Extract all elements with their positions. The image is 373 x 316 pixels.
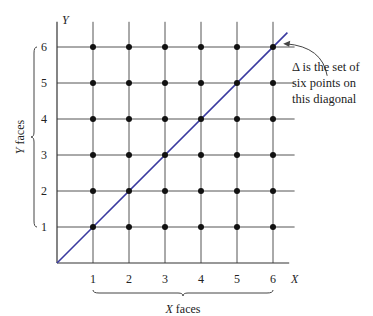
y-tick-label: 6 — [41, 40, 47, 54]
x-tick-label: 6 — [270, 272, 276, 286]
diagonal-diagram: 123456123456XYX facesY faces Δ is the se… — [0, 0, 373, 316]
y-tick-label: 3 — [41, 148, 47, 162]
grid-point — [162, 44, 168, 50]
grid-point — [234, 44, 240, 50]
y-faces-label: Y faces — [13, 120, 27, 155]
y-tick-label: 5 — [41, 76, 47, 90]
x-tick-label: 2 — [126, 272, 132, 286]
grid-point — [90, 224, 96, 230]
y-tick-label: 1 — [41, 220, 47, 234]
grid-point — [90, 116, 96, 122]
grid-point — [234, 152, 240, 158]
arrowhead-icon — [283, 41, 290, 47]
y-tick-label: 2 — [41, 184, 47, 198]
annotation-line: this diagonal — [292, 92, 357, 106]
grid-point — [270, 224, 276, 230]
annotation: Δ is the set ofsix points onthis diagona… — [283, 41, 360, 106]
grid-point — [126, 44, 132, 50]
grid-point — [126, 188, 132, 194]
faces-word: faces — [173, 302, 201, 316]
grid-point — [270, 188, 276, 194]
grid-point — [162, 80, 168, 86]
grid-point — [234, 188, 240, 194]
grid-point — [270, 152, 276, 158]
grid-point — [234, 80, 240, 86]
grid-point — [162, 188, 168, 194]
x-faces-brace — [93, 290, 273, 296]
grid-point — [198, 44, 204, 50]
grid-point — [90, 44, 96, 50]
grid-point — [234, 116, 240, 122]
grid-point — [126, 152, 132, 158]
annotation-line: Δ is the set of — [292, 60, 361, 74]
x-tick-label: 3 — [162, 272, 168, 286]
grid-point — [270, 44, 276, 50]
x-axis-label: X — [290, 272, 299, 286]
grid-point — [198, 116, 204, 122]
grid-point — [90, 152, 96, 158]
grid-point — [162, 116, 168, 122]
grid-point — [198, 152, 204, 158]
y-tick-label: 4 — [41, 112, 47, 126]
grid-point — [90, 188, 96, 194]
grid-point — [234, 224, 240, 230]
x-tick-label: 5 — [234, 272, 240, 286]
grid-point — [270, 116, 276, 122]
grid-point — [126, 224, 132, 230]
grid-point — [126, 116, 132, 122]
grid-point — [162, 152, 168, 158]
grid-point — [198, 224, 204, 230]
grid-point — [198, 80, 204, 86]
grid-point — [126, 80, 132, 86]
grid-point — [198, 188, 204, 194]
annotation-line: six points on — [292, 76, 357, 90]
x-tick-label: 1 — [90, 272, 96, 286]
y-axis-label: Y — [62, 13, 70, 27]
y-faces-brace — [31, 47, 37, 227]
faces-word: faces — [13, 120, 27, 148]
grid-point — [162, 224, 168, 230]
grid-point — [90, 80, 96, 86]
x-tick-label: 4 — [198, 272, 204, 286]
grid-point — [270, 80, 276, 86]
x-faces-label: X faces — [165, 302, 201, 316]
